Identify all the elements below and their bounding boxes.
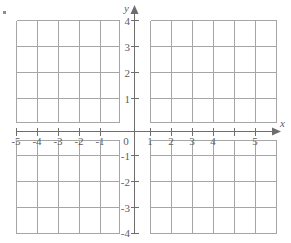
y-tick-label-1: 1 [125, 94, 131, 105]
y-tick-label--4: -4 [121, 228, 130, 239]
x-tick-label-5: 5 [252, 136, 258, 147]
x-tick-label-1: 1 [147, 136, 153, 147]
y-tick-label-3: 3 [125, 42, 131, 53]
x-tick-label--2: -2 [74, 136, 83, 147]
x-tick-label--5: -5 [11, 136, 20, 147]
x-tick-label-2: 2 [168, 136, 174, 147]
origin-label: 0 [123, 136, 129, 147]
grid-quadrant-four [151, 141, 277, 234]
x-tick-label-3: 3 [189, 136, 195, 147]
grid-quadrant-one [151, 21, 277, 123]
y-axis-arrow-icon [131, 5, 139, 14]
x-tick-label--3: -3 [53, 136, 62, 147]
x-tick-label-4: 4 [210, 136, 216, 147]
coordinate-plane-figure: -5 -4 -3 -2 -1 0 1 2 3 4 5 4 3 2 1 -1 -2… [0, 0, 291, 243]
y-axis-label: y [124, 3, 129, 14]
x-axis-label: x [280, 118, 285, 129]
grid-quadrant-two [17, 21, 120, 123]
coordinate-plane-svg [0, 0, 291, 243]
y-tick-label-4: 4 [125, 16, 131, 27]
y-tick-label--2: -2 [121, 177, 130, 188]
grid-quadrant-three [17, 141, 120, 234]
x-tick-label--4: -4 [32, 136, 41, 147]
x-tick-label--1: -1 [95, 136, 104, 147]
y-tick-label-2: 2 [125, 68, 131, 79]
y-tick-label--3: -3 [121, 203, 130, 214]
y-tick-label--1: -1 [121, 151, 130, 162]
